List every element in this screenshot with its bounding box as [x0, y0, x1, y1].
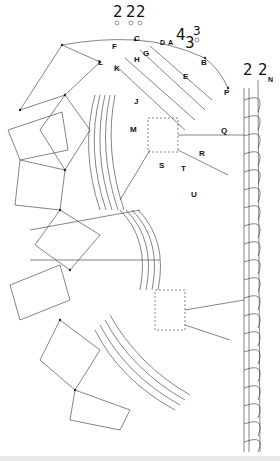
- ground-diamond-5: [70, 390, 130, 430]
- headside-diamond-1: [20, 45, 100, 110]
- point-label-s: S: [159, 162, 164, 170]
- point-label-f: F: [112, 43, 117, 51]
- pair-count-label: 2: [113, 5, 123, 20]
- point-label-q: Q: [221, 127, 227, 135]
- scallop-loops: [244, 98, 260, 452]
- point-label-e: E: [183, 73, 188, 81]
- diagonal-trails-top: [115, 46, 212, 130]
- point-label-k: K: [114, 65, 120, 73]
- pair-count-label: 3: [185, 36, 195, 51]
- point-label-a: A: [168, 39, 173, 46]
- headside-diamond-3: [10, 265, 70, 320]
- spider-grid-1: [148, 118, 178, 152]
- pair-count-label: 2: [243, 63, 253, 78]
- fan-upper: [89, 95, 124, 210]
- point-label-l: L: [98, 59, 103, 67]
- ground-diamond-4: [40, 320, 100, 390]
- point-label-n: N: [268, 76, 273, 83]
- point-label-b: B: [201, 59, 207, 67]
- point-label-c: C: [134, 35, 140, 43]
- pair-count-label: 2: [136, 5, 146, 20]
- point-label-m: M: [130, 126, 137, 134]
- diagonal-trails-mid: [30, 210, 160, 260]
- point-label-p: P: [224, 89, 229, 97]
- pair-count-label: 3: [193, 25, 201, 37]
- spider-grid-2: [155, 290, 185, 330]
- fan-middle: [120, 210, 161, 290]
- lace-diagram-canvas: [0, 0, 280, 461]
- point-label-d: D: [160, 39, 165, 46]
- pair-count-label: 2: [258, 63, 268, 78]
- headside-diamond-2: [8, 112, 68, 160]
- page-bottom-edge: [0, 456, 280, 461]
- point-label-h: H: [134, 56, 140, 64]
- point-label-u: U: [191, 191, 197, 199]
- ground-diamond-2: [15, 160, 65, 210]
- point-label-j: J: [134, 98, 138, 106]
- point-label-t: T: [181, 165, 186, 173]
- pair-count-label: 2: [126, 5, 136, 20]
- point-label-r: R: [199, 150, 205, 158]
- point-label-g: G: [143, 50, 149, 58]
- fan-lower: [95, 315, 190, 410]
